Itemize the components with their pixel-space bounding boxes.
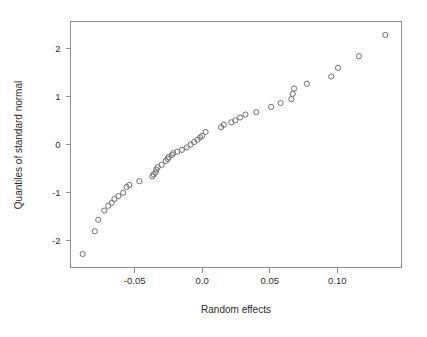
y-tick-label: -2 [52, 235, 60, 246]
y-tick-label: 1 [55, 91, 60, 102]
x-axis-title: Random effects [201, 304, 271, 315]
y-axis-title: Quantiles of standard normal [13, 81, 24, 209]
x-tick-label: 0.0 [196, 275, 209, 286]
y-tick-label: -1 [52, 187, 60, 198]
qq-plot-canvas: -0.050.00.050.10 210-1-2 Random effects … [0, 0, 427, 337]
x-tick-label: 0.05 [261, 275, 280, 286]
y-tick-label: 2 [55, 43, 60, 54]
y-tick-label: 0 [55, 139, 60, 150]
plot-background [0, 0, 427, 337]
qq-plot-figure: -0.050.00.050.10 210-1-2 Random effects … [0, 0, 427, 337]
x-tick-label: -0.05 [124, 275, 146, 286]
x-tick-label: 0.10 [328, 275, 347, 286]
